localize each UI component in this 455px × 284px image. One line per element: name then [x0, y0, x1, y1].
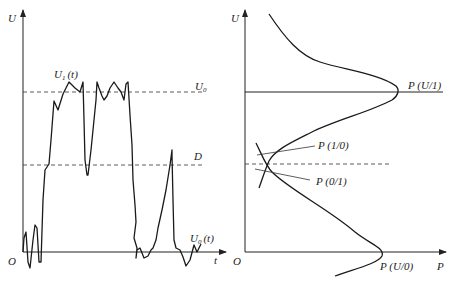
left-plot: U t O U0 D U1(t) U0(t) — [8, 10, 226, 268]
diagram-canvas: U t O U0 D U1(t) U0(t) U P O P (U/1) P (… — [0, 0, 455, 284]
signal-waveform — [23, 82, 201, 268]
error-01-label: P (0/1) — [315, 175, 347, 188]
u1-signal-label: U1(t) — [54, 68, 78, 82]
decision-level-label: D — [193, 150, 202, 162]
pdf-zero-curve — [256, 143, 382, 276]
pdf-one-label: P (U/1) — [407, 79, 441, 92]
error-10-pointer — [257, 146, 315, 155]
left-origin-label: O — [8, 255, 16, 267]
left-y-axis-label: U — [8, 12, 17, 24]
right-origin-label: O — [233, 255, 241, 267]
pdf-one-curve — [259, 14, 398, 188]
u0-signal-label: U0(t) — [190, 232, 214, 246]
pdf-zero-label: P (U/0) — [379, 260, 413, 273]
right-y-axis-label: U — [231, 12, 240, 24]
right-plot: U P O P (U/1) P (U/0) P (1/0) P (0/1) — [231, 10, 446, 276]
left-x-axis-label: t — [214, 254, 218, 266]
u0-label: U0 — [195, 80, 207, 94]
error-10-label: P (1/0) — [317, 139, 349, 152]
right-x-axis-label: P — [436, 260, 444, 272]
